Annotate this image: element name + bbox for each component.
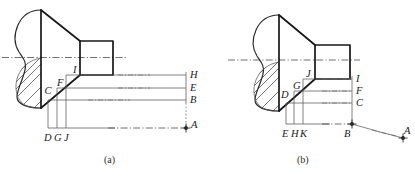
label-a-diagonal-2: I (72, 64, 77, 75)
label-b-diagonal-1: G (293, 80, 301, 91)
cylinder-rect-b (315, 45, 350, 79)
label-b-bottom-2: K (299, 128, 308, 139)
label-b-point: A (403, 125, 411, 136)
label-a-diagonal-1: F (56, 77, 64, 88)
caption-b: (b) (297, 154, 309, 166)
label-a-bottom-1: G (54, 132, 62, 143)
label-a-point: A (190, 119, 198, 130)
caption-a: (a) (104, 154, 115, 166)
label-b-base-point: B (344, 128, 351, 139)
label-b-right-2: C (356, 97, 364, 108)
label-b-diagonal-0: D (280, 89, 289, 100)
label-a-bottom-0: D (43, 132, 52, 143)
label-b-right-1: F (355, 85, 363, 96)
panel-b: D G J E H K I F C B A (b) (228, 15, 411, 166)
label-a-bottom-2: J (64, 132, 70, 143)
technical-drawing-figure: C F I D G J H E B A (a) (0, 0, 415, 173)
panel-a: C F I D G J H E B A (a) (0, 10, 199, 166)
label-a-right-2: B (190, 94, 197, 105)
label-b-bottom-0: E (281, 128, 289, 139)
label-b-bottom-1: H (290, 128, 300, 139)
point-marker-a-a (182, 124, 191, 133)
cylinder-rect-a (80, 41, 113, 75)
label-a-right-0: H (189, 69, 199, 80)
label-a-diagonal-0: C (45, 85, 53, 96)
cone-upper-slant-a (41, 10, 80, 41)
hatch-boundary-a (16, 58, 41, 108)
drawing-canvas: C F I D G J H E B A (a) (0, 0, 415, 173)
label-b-diagonal-2: J (306, 68, 312, 79)
label-a-right-1: E (189, 82, 197, 93)
slant-b-to-a-right (380, 132, 403, 138)
cone-upper-slant-b (279, 15, 315, 45)
label-b-right-0: I (355, 73, 360, 84)
